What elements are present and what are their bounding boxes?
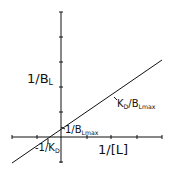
x-axis-label: 1/[L]	[98, 143, 128, 156]
slope-annotation: KD/BLmax	[117, 99, 156, 110]
y-axis-label: 1/BL	[27, 72, 53, 87]
y-intercept-annotation: 1/BLmax	[65, 125, 99, 136]
lineweaver-burk-diagram: 1/BL 1/[L] KD/BLmax 1/BLmax -1/KD	[0, 0, 171, 174]
x-intercept-annotation: -1/KD	[35, 143, 60, 154]
plot-canvas	[0, 0, 171, 174]
